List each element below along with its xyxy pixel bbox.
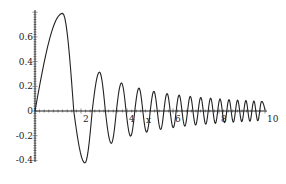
- y-tick-label: -0.4: [16, 155, 34, 165]
- x-tick-label: 2: [83, 114, 89, 124]
- y-tick-label: 0: [27, 106, 33, 116]
- series-line-0: [35, 13, 265, 162]
- y-tick-label: 0.6: [19, 32, 34, 42]
- y-tick-label: -0.2: [16, 131, 33, 141]
- series-group: [35, 13, 265, 162]
- y-tick-label: 0.4: [19, 57, 34, 67]
- chart: 246810 0.60.40.20-0.2-0.4 x: [0, 0, 286, 184]
- y-tick-labels: 0.60.40.20-0.2-0.4: [16, 32, 34, 166]
- y-tick-label: 0.2: [19, 81, 33, 91]
- x-tick-label: 10: [267, 114, 279, 124]
